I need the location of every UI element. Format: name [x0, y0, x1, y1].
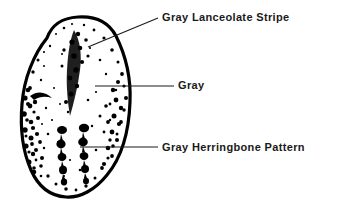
callout-label-gray: Gray — [178, 80, 204, 91]
figure-container: Gray Lanceolate Stripe Gray Gray Herring… — [0, 0, 339, 209]
callout-label-herringbone-pattern: Gray Herringbone Pattern — [162, 142, 305, 153]
egg-illustration — [0, 0, 339, 209]
callout-label-lanceolate-stripe: Gray Lanceolate Stripe — [162, 12, 290, 23]
